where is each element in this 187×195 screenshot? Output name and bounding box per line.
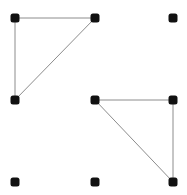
grid-dot-r2c1[interactable] — [91, 178, 100, 187]
edge-line — [95, 100, 173, 182]
grid-dot-r2c0[interactable] — [11, 178, 20, 187]
grid-dot-r1c2[interactable] — [169, 96, 178, 105]
dot-grid-board — [0, 0, 187, 195]
edge-line — [15, 18, 95, 100]
grid-dot-r1c1[interactable] — [91, 96, 100, 105]
grid-dot-r0c1[interactable] — [91, 14, 100, 23]
grid-dot-r1c0[interactable] — [11, 96, 20, 105]
grid-dot-r0c0[interactable] — [11, 14, 20, 23]
grid-dot-r0c2[interactable] — [169, 14, 178, 23]
grid-dot-r2c2[interactable] — [169, 178, 178, 187]
